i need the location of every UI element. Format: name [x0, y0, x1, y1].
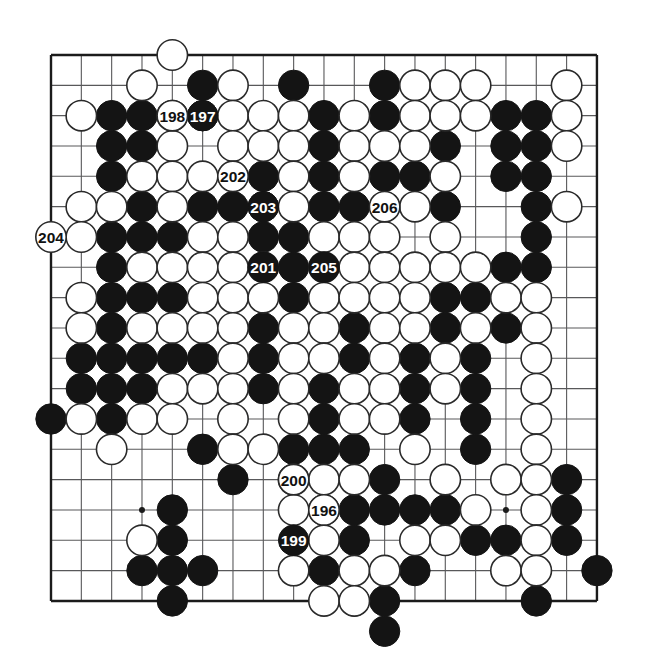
- black-stone[interactable]: [400, 373, 430, 403]
- white-stone[interactable]: [248, 434, 278, 464]
- white-stone[interactable]: [218, 434, 248, 464]
- black-stone[interactable]: [309, 131, 339, 161]
- black-stone[interactable]: [157, 222, 187, 252]
- white-stone[interactable]: [430, 373, 460, 403]
- black-stone[interactable]: [96, 100, 126, 130]
- numbered-black-stone[interactable]: [248, 252, 278, 282]
- white-stone[interactable]: [157, 252, 187, 282]
- white-stone[interactable]: [491, 282, 521, 312]
- white-stone[interactable]: [551, 70, 581, 100]
- black-stone[interactable]: [157, 586, 187, 616]
- white-stone[interactable]: [187, 373, 217, 403]
- black-stone[interactable]: [96, 222, 126, 252]
- white-stone[interactable]: [96, 434, 126, 464]
- black-stone[interactable]: [278, 222, 308, 252]
- white-stone[interactable]: [369, 373, 399, 403]
- black-stone[interactable]: [157, 343, 187, 373]
- black-stone[interactable]: [127, 555, 157, 585]
- white-stone[interactable]: [369, 343, 399, 373]
- white-stone[interactable]: [491, 555, 521, 585]
- numbered-black-stone[interactable]: [248, 191, 278, 221]
- black-stone[interactable]: [187, 343, 217, 373]
- white-stone[interactable]: [127, 404, 157, 434]
- white-stone[interactable]: [521, 373, 551, 403]
- white-stone[interactable]: [339, 100, 369, 130]
- white-stone[interactable]: [551, 131, 581, 161]
- white-stone[interactable]: [187, 161, 217, 191]
- black-stone[interactable]: [157, 495, 187, 525]
- white-stone[interactable]: [157, 404, 187, 434]
- white-stone[interactable]: [157, 40, 187, 70]
- black-stone[interactable]: [369, 616, 399, 646]
- black-stone[interactable]: [369, 495, 399, 525]
- black-stone[interactable]: [551, 525, 581, 555]
- black-stone[interactable]: [187, 555, 217, 585]
- black-stone[interactable]: [157, 525, 187, 555]
- numbered-black-stone[interactable]: [278, 525, 308, 555]
- white-stone[interactable]: [157, 131, 187, 161]
- black-stone[interactable]: [187, 434, 217, 464]
- black-stone[interactable]: [491, 131, 521, 161]
- white-stone[interactable]: [96, 191, 126, 221]
- white-stone[interactable]: [521, 434, 551, 464]
- black-stone[interactable]: [96, 404, 126, 434]
- white-stone[interactable]: [309, 282, 339, 312]
- white-stone[interactable]: [157, 191, 187, 221]
- white-stone[interactable]: [157, 373, 187, 403]
- white-stone[interactable]: [339, 373, 369, 403]
- black-stone[interactable]: [460, 434, 490, 464]
- black-stone[interactable]: [369, 100, 399, 130]
- numbered-white-stone[interactable]: [157, 100, 187, 130]
- black-stone[interactable]: [521, 161, 551, 191]
- white-stone[interactable]: [430, 464, 460, 494]
- white-stone[interactable]: [157, 313, 187, 343]
- white-stone[interactable]: [278, 495, 308, 525]
- white-stone[interactable]: [369, 222, 399, 252]
- white-stone[interactable]: [369, 131, 399, 161]
- black-stone[interactable]: [521, 586, 551, 616]
- white-stone[interactable]: [66, 100, 96, 130]
- white-stone[interactable]: [339, 161, 369, 191]
- white-stone[interactable]: [278, 191, 308, 221]
- black-stone[interactable]: [460, 343, 490, 373]
- white-stone[interactable]: [218, 252, 248, 282]
- white-stone[interactable]: [521, 404, 551, 434]
- white-stone[interactable]: [339, 464, 369, 494]
- black-stone[interactable]: [278, 434, 308, 464]
- black-stone[interactable]: [460, 404, 490, 434]
- white-stone[interactable]: [400, 525, 430, 555]
- white-stone[interactable]: [339, 282, 369, 312]
- black-stone[interactable]: [96, 131, 126, 161]
- white-stone[interactable]: [400, 434, 430, 464]
- numbered-white-stone[interactable]: [369, 191, 399, 221]
- black-stone[interactable]: [127, 343, 157, 373]
- black-stone[interactable]: [521, 252, 551, 282]
- black-stone[interactable]: [96, 161, 126, 191]
- black-stone[interactable]: [521, 100, 551, 130]
- black-stone[interactable]: [491, 252, 521, 282]
- black-stone[interactable]: [582, 555, 612, 585]
- numbered-white-stone[interactable]: [278, 464, 308, 494]
- black-stone[interactable]: [430, 495, 460, 525]
- black-stone[interactable]: [96, 252, 126, 282]
- black-stone[interactable]: [339, 434, 369, 464]
- black-stone[interactable]: [430, 131, 460, 161]
- white-stone[interactable]: [400, 70, 430, 100]
- black-stone[interactable]: [96, 343, 126, 373]
- white-stone[interactable]: [400, 100, 430, 130]
- white-stone[interactable]: [309, 313, 339, 343]
- white-stone[interactable]: [66, 313, 96, 343]
- white-stone[interactable]: [521, 464, 551, 494]
- white-stone[interactable]: [309, 586, 339, 616]
- white-stone[interactable]: [460, 313, 490, 343]
- stones-layer[interactable]: [36, 40, 612, 647]
- white-stone[interactable]: [339, 555, 369, 585]
- black-stone[interactable]: [491, 100, 521, 130]
- black-stone[interactable]: [278, 282, 308, 312]
- black-stone[interactable]: [127, 373, 157, 403]
- black-stone[interactable]: [339, 191, 369, 221]
- white-stone[interactable]: [157, 161, 187, 191]
- black-stone[interactable]: [309, 373, 339, 403]
- black-stone[interactable]: [127, 282, 157, 312]
- black-stone[interactable]: [96, 282, 126, 312]
